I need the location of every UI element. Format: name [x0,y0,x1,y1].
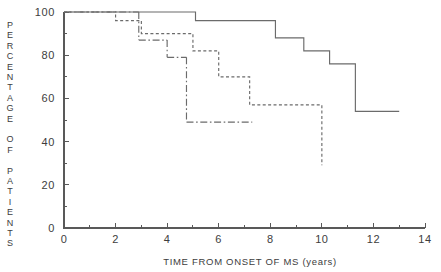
y-tick-label: 40 [42,136,55,148]
y-axis-title-letter: P [7,166,13,176]
y-axis-title-letter: N [7,218,14,228]
y-axis-title-letter: O [6,134,13,144]
y-axis-title-letter: P [7,20,13,30]
survival-curve-chart: 02468101214020406080100TIME FROM ONSET O… [0,0,441,272]
y-axis-title-letter: C [7,51,14,61]
x-tick-label: 2 [112,233,119,245]
x-tick-label: 0 [61,233,68,245]
y-tick-label: 80 [42,49,55,61]
y-tick-label: 20 [42,179,55,191]
series-dotted-curve [64,12,322,165]
y-axis-title-letter: A [7,93,13,103]
y-axis-title-letter: T [7,228,13,238]
y-tick-label: 100 [35,6,55,18]
y-axis-title-letter: F [7,145,13,155]
y-axis-title-letter: T [7,186,13,196]
y-tick-label: 0 [48,222,55,234]
x-tick-label: 10 [315,233,328,245]
x-tick-label: 14 [418,233,431,245]
x-tick-label: 4 [164,233,171,245]
y-axis-title-letter: N [7,72,14,82]
y-tick-label: 60 [42,92,55,104]
y-axis-title-letter: A [7,176,13,186]
y-axis-title-letter: R [7,41,14,51]
y-axis-title-letter: E [7,114,13,124]
axis-lines [64,12,425,228]
x-tick-label: 12 [367,233,380,245]
plot-area: 02468101214020406080100TIME FROM ONSET O… [0,0,441,272]
x-tick-label: 6 [215,233,222,245]
x-tick-label: 8 [267,233,274,245]
y-axis-title-letter: S [7,238,13,248]
y-axis-title-letter: E [7,30,13,40]
y-axis-title-letter: I [9,197,12,207]
x-axis-title: TIME FROM ONSET OF MS (years) [163,256,337,267]
y-axis-title-letter: G [6,103,13,113]
y-axis-title-letter: E [7,62,13,72]
series-solid-curve [64,12,399,111]
y-axis-title-letter: E [7,207,13,217]
y-axis-title-letter: T [7,82,13,92]
